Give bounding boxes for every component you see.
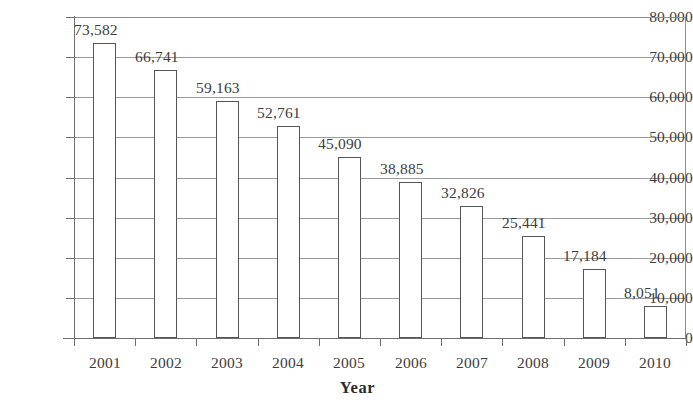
bar-2002 (154, 70, 177, 338)
x-axis-tick (441, 339, 442, 346)
x-axis-line (63, 338, 687, 339)
x-axis-tick (258, 339, 259, 346)
y-axis-tick (66, 298, 74, 299)
bar-2007 (460, 206, 483, 338)
x-axis-tick (625, 339, 626, 346)
x-axis-label-2009: 2009 (564, 355, 624, 371)
bar-chart: 80,00070,00060,00050,00040,00030,00020,0… (0, 0, 693, 406)
x-axis-tick (502, 339, 503, 346)
bar-2004 (277, 126, 300, 338)
y-axis-tick (66, 17, 74, 18)
x-axis-tick (686, 339, 687, 346)
bar-value-label: 38,885 (380, 161, 424, 177)
x-axis-tick (74, 339, 75, 346)
x-axis-label-2005: 2005 (319, 355, 379, 371)
x-axis-tick (319, 339, 320, 346)
bar-2006 (399, 182, 422, 338)
x-axis-label-2002: 2002 (136, 355, 196, 371)
y-axis-tick (66, 57, 74, 58)
x-axis-title: Year (0, 378, 693, 398)
x-axis-label-2001: 2001 (75, 355, 135, 371)
x-axis-label-2003: 2003 (197, 355, 257, 371)
bar-2009 (583, 269, 606, 338)
bar-value-label: 52,761 (257, 105, 301, 121)
bar-value-label: 8,051 (624, 285, 660, 301)
x-axis-tick (196, 339, 197, 346)
bar-2008 (522, 236, 545, 338)
x-axis-label-2004: 2004 (258, 355, 318, 371)
x-axis-label-2010: 2010 (625, 355, 685, 371)
bar-value-label: 45,090 (318, 136, 362, 152)
y-axis-tick (66, 178, 74, 179)
x-axis-tick (380, 339, 381, 346)
x-axis-tick (135, 339, 136, 346)
bar-2010 (644, 306, 667, 338)
bar-value-label: 66,741 (135, 49, 179, 65)
x-axis-label-2006: 2006 (381, 355, 441, 371)
bar-value-label: 59,163 (196, 80, 240, 96)
bar-value-label: 17,184 (563, 248, 607, 264)
bar-2001 (93, 43, 116, 338)
y-axis-tick (66, 218, 74, 219)
x-axis-tick (564, 339, 565, 346)
bar-value-label: 25,441 (502, 215, 546, 231)
y-axis-tick (66, 258, 74, 259)
y-axis-tick (66, 97, 74, 98)
y-axis-line (74, 16, 75, 340)
bar-2005 (338, 157, 361, 338)
x-axis-label-2007: 2007 (442, 355, 502, 371)
y-axis-tick (66, 137, 74, 138)
bar-value-label: 32,826 (441, 185, 485, 201)
bar-2003 (216, 101, 239, 338)
x-axis-label-2008: 2008 (503, 355, 563, 371)
bar-value-label: 73,582 (74, 22, 118, 38)
